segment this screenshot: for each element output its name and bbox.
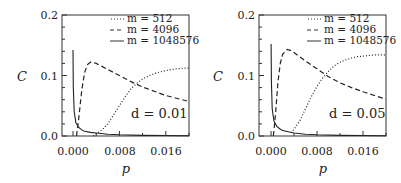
series-line bbox=[271, 44, 386, 136]
series-line bbox=[273, 50, 386, 137]
x-tick-label: 0.016 bbox=[150, 145, 182, 158]
x-axis-label: p bbox=[122, 161, 131, 176]
series-line bbox=[77, 62, 190, 136]
y-tick-label: 0.0 bbox=[238, 130, 256, 143]
curves bbox=[73, 50, 189, 136]
y-axis-label: C bbox=[213, 69, 223, 84]
y-tick-label: 0.2 bbox=[41, 9, 59, 22]
x-tick-label: 0.000 bbox=[57, 145, 89, 158]
y-tick-label: 0.2 bbox=[238, 9, 256, 22]
chart-panel-d-0.05: 0.2 0.1 0.0 0.000 0.008 0.016 C p m = 51… bbox=[213, 9, 396, 176]
x-tick-label: 0.008 bbox=[104, 145, 136, 158]
x-tick-label: 0.016 bbox=[347, 145, 379, 158]
x-tick-label: 0.000 bbox=[255, 145, 287, 158]
figure: 0.2 0.1 0.0 0.000 0.008 0.016 C p m = 51… bbox=[0, 0, 401, 183]
series-line bbox=[291, 55, 386, 133]
curves bbox=[271, 44, 386, 136]
y-tick-label: 0.1 bbox=[41, 70, 59, 83]
y-ticks bbox=[62, 15, 67, 136]
chart-panel-d-0.01: 0.2 0.1 0.0 0.000 0.008 0.016 C p m = 51… bbox=[17, 9, 199, 176]
x-axis-label: p bbox=[319, 161, 328, 176]
y-tick-label: 0.0 bbox=[41, 130, 59, 143]
legend-entry: m = 1048576 bbox=[324, 34, 397, 46]
legend-entry: m = 1048576 bbox=[127, 34, 200, 46]
x-tick-label: 0.008 bbox=[301, 145, 333, 158]
series-line bbox=[93, 68, 189, 136]
y-axis-label: C bbox=[17, 69, 27, 84]
legend: m = 512 m = 4096 m = 1048576 bbox=[307, 12, 397, 46]
y-tick-label: 0.1 bbox=[238, 70, 256, 83]
annotation: d = 0.05 bbox=[329, 106, 385, 121]
annotation: d = 0.01 bbox=[131, 106, 187, 121]
legend: m = 512 m = 4096 m = 1048576 bbox=[110, 12, 200, 46]
y-ticks bbox=[259, 15, 264, 136]
